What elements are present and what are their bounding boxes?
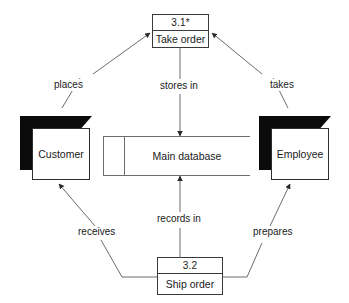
process-take-order-id: 3.1* <box>153 15 208 31</box>
flow-line-receives-b <box>101 240 122 277</box>
entity-employee[interactable]: Employee <box>259 116 331 182</box>
process-ship-order[interactable]: 3.2 Ship order <box>157 257 223 295</box>
process-ship-order-label: Ship order <box>158 274 222 294</box>
datastore-main-database[interactable]: Main database <box>103 136 250 176</box>
process-ship-order-id: 3.2 <box>158 258 222 274</box>
datastore-main-database-label: Main database <box>124 136 250 176</box>
process-take-order[interactable]: 3.1* Take order <box>152 14 209 48</box>
flow-label-records-in: records in <box>155 213 203 225</box>
entity-customer[interactable]: Customer <box>20 116 92 182</box>
flow-line-prepares-c <box>270 184 290 226</box>
flow-label-prepares: prepares <box>251 226 294 238</box>
flow-label-stores-in: stores in <box>158 80 200 92</box>
flow-line-places-b <box>93 33 150 74</box>
flow-line-takes-b <box>212 33 262 74</box>
entity-employee-label: Employee <box>271 128 329 180</box>
datastore-left-cap <box>103 136 104 176</box>
entity-customer-label: Customer <box>32 128 90 180</box>
flow-line-receives-c <box>59 184 95 226</box>
dfd-diagram-canvas: 3.1* Take order 3.2 Ship order Customer … <box>0 0 349 303</box>
flow-line-prepares-b <box>247 243 262 277</box>
flow-label-places: places <box>52 79 85 91</box>
flow-label-receives: receives <box>76 226 117 238</box>
process-take-order-label: Take order <box>153 31 208 47</box>
flow-label-takes: takes <box>268 79 296 91</box>
